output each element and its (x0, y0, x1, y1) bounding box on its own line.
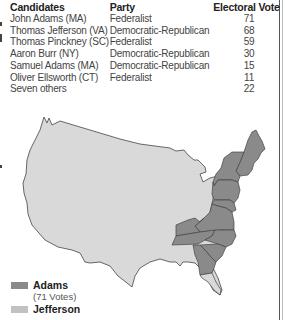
adams-swatch-icon (11, 282, 28, 289)
legend-label-adams: Adams (33, 279, 68, 291)
region-pennsylvania-nj (212, 180, 240, 203)
map-legend: Adams (71 Votes) Jefferson (11, 279, 80, 315)
us-landmass (23, 117, 222, 295)
legend-label-jefferson: Jefferson (33, 303, 80, 315)
legend-sub-adams: (71 Votes) (11, 291, 80, 303)
us-electoral-map (0, 0, 285, 320)
jefferson-swatch-icon (11, 306, 28, 313)
legend-item-jefferson: Jefferson (11, 303, 80, 315)
legend-item-adams: Adams (11, 279, 80, 291)
